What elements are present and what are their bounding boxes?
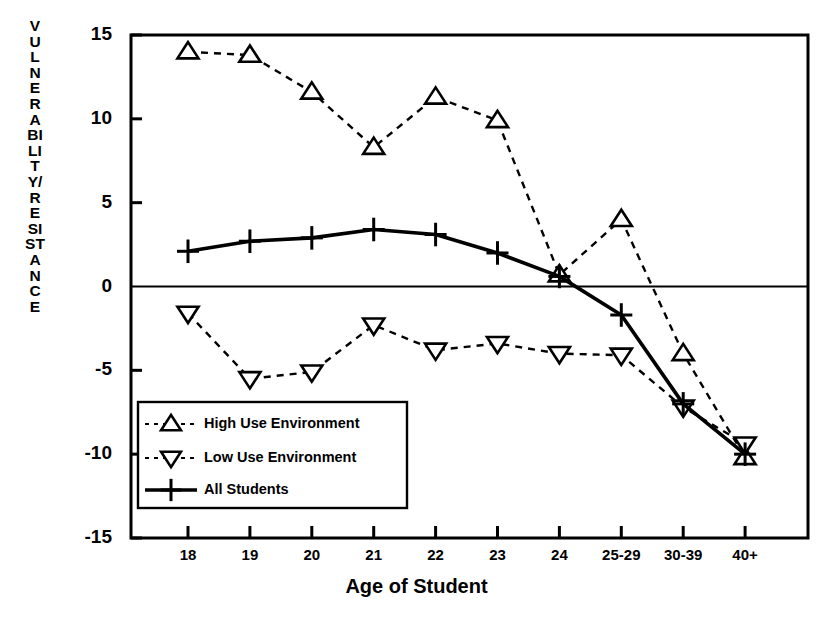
y-tick-label: 0 — [62, 275, 112, 297]
chart-figure: VULNERABILITY/RESISTANCE 151050-5-10-15 … — [0, 0, 833, 624]
marker-plus — [425, 223, 447, 247]
marker-triangle-down — [239, 372, 260, 388]
marker-triangle-up — [425, 87, 446, 103]
marker-plus — [486, 241, 508, 265]
y-tick-label: 10 — [62, 107, 112, 129]
marker-triangle-down — [549, 347, 570, 363]
y-tick-label: -10 — [62, 442, 112, 464]
x-tick-label: 40+ — [705, 546, 785, 563]
x-axis-title: Age of Student — [0, 575, 833, 598]
marker-triangle-up — [611, 210, 632, 226]
legend-entry-label: High Use Environment — [204, 415, 360, 431]
marker-plus — [363, 218, 385, 242]
marker-triangle-down — [177, 307, 198, 323]
marker-triangle-up — [301, 82, 322, 98]
y-tick-label: -15 — [62, 526, 112, 548]
marker-plus — [239, 229, 261, 253]
series-line-0 — [188, 52, 745, 458]
plot-area — [0, 0, 833, 624]
legend-entry-label: Low Use Environment — [204, 449, 356, 465]
y-tick-label: -5 — [62, 358, 112, 380]
marker-plus — [177, 240, 199, 264]
marker-triangle-down — [425, 344, 446, 360]
marker-triangle-down — [363, 318, 384, 334]
legend-entry-label: All Students — [204, 481, 289, 497]
marker-triangle-up — [673, 344, 694, 360]
marker-plus — [301, 226, 323, 250]
marker-triangle-up — [177, 42, 198, 58]
y-tick-label: 5 — [62, 191, 112, 213]
y-tick-label: 15 — [62, 23, 112, 45]
